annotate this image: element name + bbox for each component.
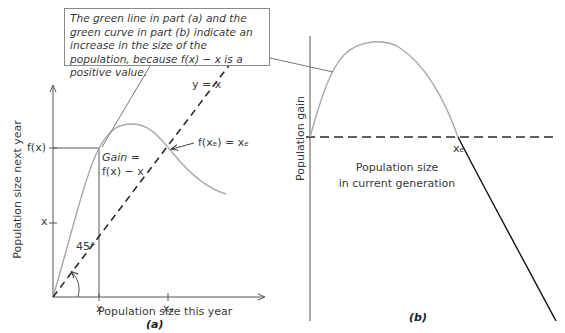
angle-arc [72, 272, 79, 297]
panel-b-xe-label: xₑ [453, 143, 464, 154]
y-tick-x-label: x [41, 216, 48, 227]
panel-b-decline-line [458, 137, 556, 321]
callout-box: The green line in part (a) and the green… [64, 8, 270, 66]
panel-a-caption: (a) [146, 318, 163, 331]
panel-b-y-label: Population gain [294, 89, 307, 189]
panel-b-gain-curve [310, 42, 458, 137]
panel-a-population-curve [53, 124, 226, 297]
identity-line-label: y = x [192, 79, 221, 90]
equilibrium-label: f(xₑ) = xₑ [198, 137, 249, 148]
gain-label-1: Gain = [102, 152, 140, 163]
identity-dashed-line [53, 64, 230, 297]
panel-b-x-label-1: Population size [342, 162, 452, 173]
gain-label-2: f(x) − x [102, 166, 144, 177]
panel-a [49, 64, 264, 301]
angle-label: 45° [76, 241, 96, 252]
equilibrium-arrow [172, 143, 194, 149]
panel-b-x-label-2: in current generation [337, 178, 457, 189]
panel-a-x-label: Population size this year [98, 306, 232, 317]
callout-connector-b [270, 58, 333, 72]
y-tick-fx-label: f(x) [27, 142, 46, 153]
panel-b-caption: (b) [409, 311, 427, 324]
panel-a-y-label: Population size next year [11, 120, 24, 260]
